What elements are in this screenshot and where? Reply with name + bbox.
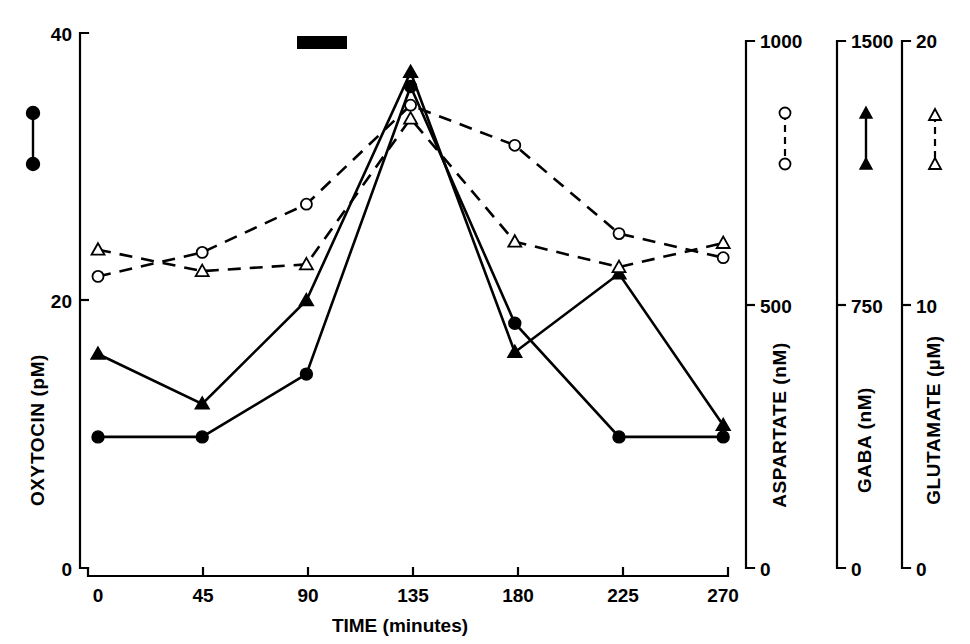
open-circle-icon [405,100,416,111]
stimulation-bar [297,36,347,49]
oxytocin-legend-marker [27,107,40,171]
glutamate-legend-marker [929,109,941,169]
filled-triangle-icon [91,347,105,359]
oxytocin-tick-mid: 20 [51,291,72,312]
filled-triangle-icon [299,294,313,306]
open-circle-icon [93,271,104,282]
open-circle-icon [301,199,312,210]
x-axis-title: TIME (minutes) [332,615,468,636]
glutamate-axis-title: GLUTAMATE (µM) [923,335,944,505]
filled-circle-icon [509,317,521,329]
open-triangle-icon [717,237,730,249]
open-circle-icon [614,228,625,239]
series-aspartate [93,100,729,282]
filled-triangle-icon [860,158,872,169]
series-line [98,87,723,437]
filled-triangle-icon [404,65,418,77]
aspartate-legend-marker [780,108,791,170]
gaba-axis-title: GABA (nM) [854,387,875,493]
open-circle-icon [780,159,791,170]
aspartate-tick-top: 1000 [760,31,802,52]
series-layer [91,65,730,443]
open-circle-icon [197,247,208,258]
oxytocin-tick-bottom: 0 [61,559,72,580]
glutamate-tick-top: 20 [916,31,937,52]
open-triangle-icon [929,158,941,169]
open-triangle-icon [508,235,521,247]
glutamate-axis: 20 10 0 GLUTAMATE (µM) [902,31,944,580]
glutamate-tick-bottom: 0 [916,559,927,580]
x-tick-135: 135 [397,585,429,606]
series-glutamate [92,112,730,276]
x-tick-45: 45 [192,585,214,606]
x-tick-270: 270 [707,585,739,606]
x-tick-180: 180 [502,585,534,606]
gaba-tick-top: 1500 [851,31,893,52]
aspartate-tick-bottom: 0 [760,559,771,580]
series-line [98,119,723,272]
aspartate-axis: 1000 500 0 ASPARTATE (nM) [746,31,802,580]
time-axis: 0 45 90 135 180 225 270 TIME (minutes) [88,567,739,636]
gaba-tick-mid: 750 [851,296,883,317]
open-triangle-icon [404,112,417,124]
open-circle-icon [780,108,791,119]
gaba-tick-bottom: 0 [851,559,862,580]
open-triangle-icon [929,109,941,120]
series-line [98,105,723,276]
aspartate-tick-mid: 500 [760,296,792,317]
gaba-axis: 1500 750 0 GABA (nM) [837,31,893,580]
figure-container: 40 20 0 OXYTOCIN (pM) 0 45 90 135 180 22… [0,0,970,644]
filled-circle-icon [27,158,40,171]
x-tick-225: 225 [607,585,639,606]
open-circle-icon [718,252,729,263]
filled-circle-icon [300,368,312,380]
x-tick-90: 90 [297,585,318,606]
oxytocin-tick-top: 40 [51,24,72,45]
open-circle-icon [509,140,520,151]
aspartate-axis-title: ASPARTATE (nM) [769,342,790,508]
open-triangle-icon [92,243,105,255]
multi-axis-line-chart: 40 20 0 OXYTOCIN (pM) 0 45 90 135 180 22… [0,0,970,644]
filled-circle-icon [92,431,104,443]
oxytocin-axis-title: OXYTOCIN (pM) [27,354,48,506]
filled-circle-icon [613,431,625,443]
filled-circle-icon [27,107,40,120]
gaba-legend-marker [860,107,872,169]
glutamate-tick-mid: 10 [916,296,937,317]
series-oxytocin [92,81,729,443]
filled-circle-icon [717,431,729,443]
filled-triangle-icon [860,107,872,118]
series-line [98,72,723,425]
x-tick-0: 0 [93,585,104,606]
filled-circle-icon [196,431,208,443]
